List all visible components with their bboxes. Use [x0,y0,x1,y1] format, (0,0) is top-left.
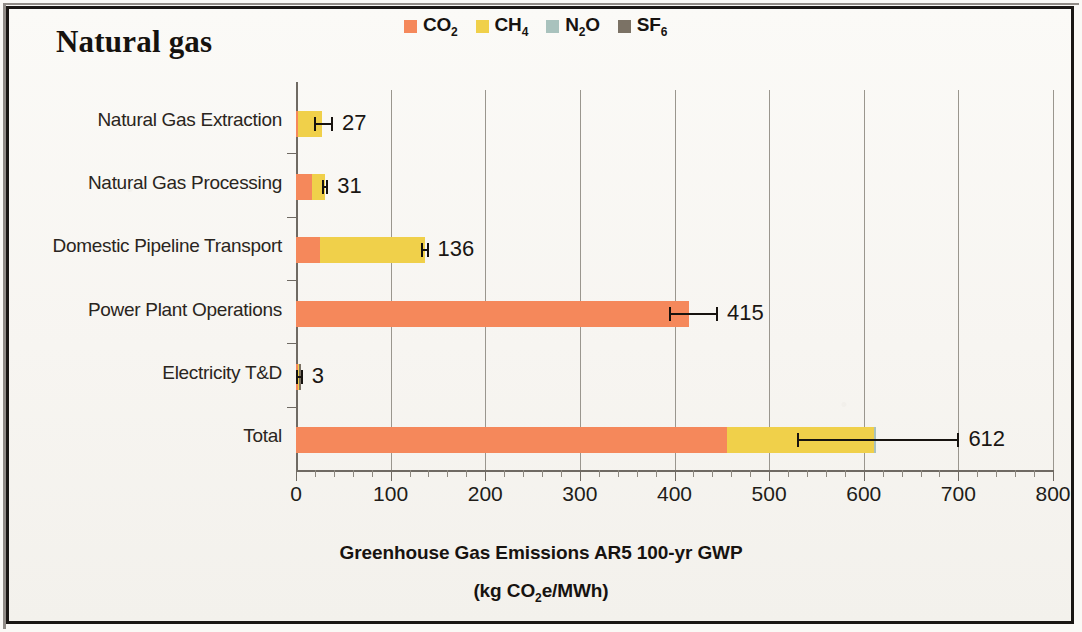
gridline-800 [1053,90,1054,470]
category-label-0: Natural Gas Extraction [97,109,282,131]
x-tick-label-600: 600 [846,482,881,506]
x-tick-minor [334,470,335,477]
gridline-700 [958,90,959,470]
x-axis-title-line1: Greenhouse Gas Emissions AR5 100-yr GWP [0,542,1082,564]
y-tick [287,407,296,408]
bar-row: 612 [296,427,1053,453]
y-tick [287,153,296,154]
x-tick-minor [315,470,316,477]
x-tick-minor [693,470,694,477]
error-bar-cap-high [326,180,328,194]
x-tick-minor [807,470,808,477]
error-bar-cap-low [314,117,316,131]
legend-label: CO2 [423,14,458,39]
x-tick-minor [1034,470,1035,477]
x-tick-minor [788,470,789,477]
error-bar-cap-high [331,117,333,131]
x-tick-600 [864,470,865,481]
plot-area: 010020030040050060070080027311364153612 [296,90,1053,470]
error-bar-line [315,123,332,125]
x-tick-label-800: 800 [1035,482,1070,506]
error-bar-cap-low [669,307,671,321]
x-tick-minor [750,470,751,477]
error-bar-cap-high [301,370,303,384]
gridline-500 [769,90,770,470]
x-tick-minor [996,470,997,477]
x-tick-minor [410,470,411,477]
x-tick-minor [523,470,524,477]
chart-title: Natural gas [56,24,212,60]
legend-swatch-ch4-icon [476,20,489,33]
chart-figure: Natural gas CO2CH4N2OSF6 010020030040050… [0,0,1082,632]
x-tick-minor [372,470,373,477]
category-label-3: Power Plant Operations [88,299,282,321]
gridline-600 [864,90,865,470]
stacked-bar[interactable] [296,237,425,263]
legend-item-ch4[interactable]: CH4 [476,14,529,39]
x-tick-400 [675,470,676,481]
chart-legend: CO2CH4N2OSF6 [404,14,667,39]
stacked-bar[interactable] [296,174,325,200]
gridline-100 [391,90,392,470]
x-tick-minor [1015,470,1016,477]
x-tick-700 [958,470,959,481]
x-tick-label-0: 0 [290,482,302,506]
error-bar-cap-low [421,243,423,257]
x-tick-minor [618,470,619,477]
error-bar-cap-low [322,180,324,194]
category-label-1: Natural Gas Processing [88,172,282,194]
x-tick-100 [391,470,392,481]
x-tick-500 [769,470,770,481]
x-tick-minor [731,470,732,477]
legend-label: N2O [565,14,600,39]
x-tick-200 [485,470,486,481]
y-axis-line [296,82,298,472]
x-tick-minor [447,470,448,477]
legend-item-n2o[interactable]: N2O [546,14,600,39]
x-tick-minor [466,470,467,477]
bar-row: 3 [296,364,1053,390]
x-tick-label-500: 500 [752,482,787,506]
gridline-400 [675,90,676,470]
bar-segment-co2 [296,301,689,327]
bar-segment-ch4 [320,237,425,263]
error-bar-line [798,439,959,441]
x-tick-0 [296,470,297,481]
bar-row: 415 [296,301,1053,327]
gridline-300 [580,90,581,470]
x-tick-label-200: 200 [468,482,503,506]
y-tick [287,280,296,281]
error-bar-cap-low [797,433,799,447]
x-tick-minor [883,470,884,477]
x-tick-minor [637,470,638,477]
x-tick-minor [826,470,827,477]
x-tick-minor [977,470,978,477]
x-tick-minor [561,470,562,477]
category-label-2: Domestic Pipeline Transport [52,235,282,257]
stacked-bar[interactable] [296,301,689,327]
bar-value-label: 31 [337,173,361,199]
error-bar-cap-high [957,433,959,447]
stacked-bar[interactable] [296,427,876,453]
bar-row: 27 [296,111,1053,137]
bar-segment-co2 [296,174,312,200]
bar-value-label: 27 [342,110,366,136]
category-label-4: Electricity T&D [162,362,282,384]
y-tick [287,217,296,218]
gridline-200 [485,90,486,470]
x-tick-300 [580,470,581,481]
legend-item-sf6[interactable]: SF6 [618,14,667,39]
x-tick-minor [712,470,713,477]
x-tick-label-700: 700 [941,482,976,506]
bar-row: 136 [296,237,1053,263]
x-tick-minor [353,470,354,477]
legend-item-co2[interactable]: CO2 [404,14,458,39]
bar-value-label: 612 [968,426,1005,452]
category-label-5: Total [243,425,282,447]
legend-swatch-co2-icon [404,20,417,33]
x-tick-label-400: 400 [657,482,692,506]
bar-segment-co2 [296,427,727,453]
x-tick-minor [542,470,543,477]
error-bar-cap-high [427,243,429,257]
y-tick [287,343,296,344]
